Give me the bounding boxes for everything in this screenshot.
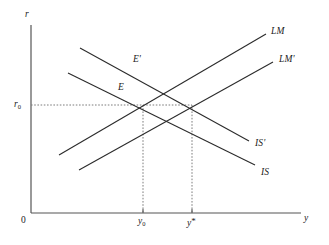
is-base: IS [261,167,269,177]
e-base: E [118,82,124,92]
e-prime-mark: ' [139,54,141,64]
r0-subscript: 0 [18,103,21,110]
origin-label: 0 [21,216,26,226]
lm-base: LM [271,26,285,36]
curve-is-prime [80,48,249,141]
curve-lm-prime [79,62,273,170]
curve-label-is-prime: IS' [255,139,266,149]
curve-label-is: IS [261,168,269,178]
ystar-asterisk: * [191,216,196,226]
equilibrium-label-e: E [118,83,124,93]
ystar-tick-label: y* [187,217,196,229]
curve-label-lm-prime: LM' [279,55,295,65]
is-prime-mark: ' [263,138,265,148]
y0-subscript: 0 [142,220,145,227]
y-axis-label: r [25,10,29,20]
diagram-canvas [0,0,329,245]
lm-prime-base: LM [279,54,293,64]
equilibrium-label-e-prime: E' [133,55,141,65]
x-axis-label: y [304,214,308,224]
curve-is [68,73,255,165]
curve-label-lm: LM [271,27,285,37]
curve-lm [59,34,266,155]
r0-tick-label: r0 [14,100,21,110]
is-lm-diagram: r y 0 r0 y0 y* LM LM' IS' IS E' E [0,0,329,245]
y0-tick-label: y0 [138,217,145,227]
lm-prime-mark: ' [293,54,295,64]
